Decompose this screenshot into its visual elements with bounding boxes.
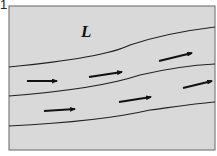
streamline-diagram: L: [0, 0, 217, 156]
low-pressure-label: L: [80, 22, 91, 41]
diagram-frame: [9, 6, 215, 150]
